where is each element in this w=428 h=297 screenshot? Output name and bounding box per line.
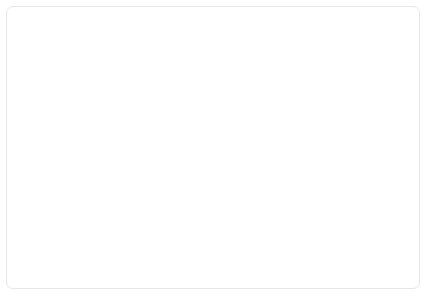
figure-frame: [6, 6, 420, 289]
chart-container: 0102030405060708090100% '75'77'79'81'83'…: [0, 0, 428, 297]
